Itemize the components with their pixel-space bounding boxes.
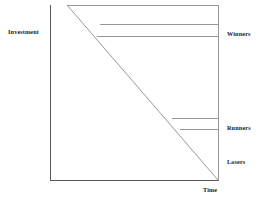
winners-band-lines [97,25,218,37]
runners-annotation-label: Runners [227,125,251,131]
y-axis-label: Investment [8,29,39,35]
losers-annotation-label: Losers [227,159,245,165]
winners-annotation-label: Winners [227,31,251,37]
decline-diagonal-line [67,5,218,180]
investment-time-diagram: Investment Winners Runners Losers Time [0,0,263,201]
runners-band-lines [172,119,218,130]
axis-lines [50,5,219,181]
diagram-canvas [0,0,263,201]
x-axis-label: Time [203,187,217,193]
